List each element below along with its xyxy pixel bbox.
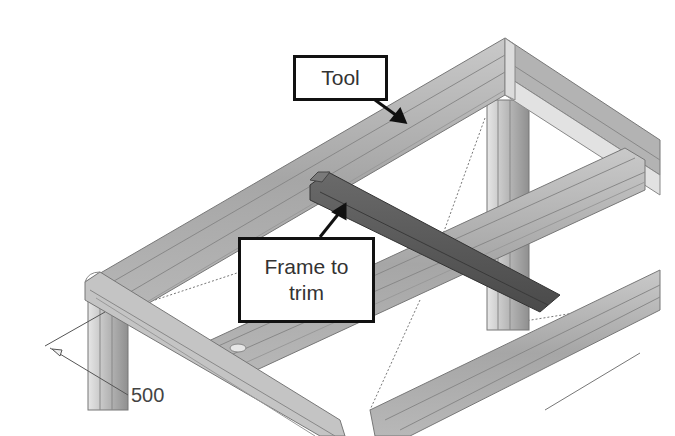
frame-callout-line2: trim <box>264 280 348 306</box>
back-corner-joint <box>505 38 515 100</box>
frame-to-trim-callout: Frame to trim <box>238 237 375 323</box>
frame-callout-line1: Frame to <box>264 254 348 280</box>
edge-line <box>545 353 640 410</box>
dimension-value: 500 <box>131 384 164 407</box>
tool-callout-label: Tool <box>321 66 360 90</box>
frame-diagram: Tool Frame to trim 500 <box>0 0 675 436</box>
tool-callout: Tool <box>293 55 388 101</box>
